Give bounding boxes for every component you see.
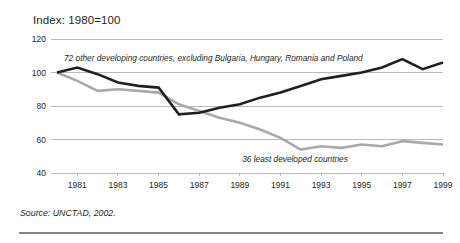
source-note: Source: UNCTAD, 2002.: [20, 208, 116, 218]
line-chart: 406080100120 198119831985198719891991199…: [0, 0, 460, 243]
y-axis-ticks: 406080100120: [32, 34, 46, 178]
y-tick-label: 60: [37, 135, 47, 145]
series-annotation: 72 other developing countries, excluding…: [64, 53, 363, 63]
y-tick-label: 40: [37, 168, 47, 178]
x-tick-label: 1993: [312, 180, 331, 190]
x-tick-label: 1983: [108, 180, 127, 190]
x-tick-label: 1999: [434, 180, 453, 190]
x-tick-label: 1981: [68, 180, 87, 190]
x-tick-label: 1995: [352, 180, 371, 190]
series-annotation: 36 least developed countries: [242, 154, 348, 164]
y-tick-label: 100: [32, 68, 46, 78]
y-tick-label: 80: [37, 101, 47, 111]
x-tick-label: 1989: [230, 180, 249, 190]
x-tick-label: 1985: [149, 180, 168, 190]
chart-figure: Index: 1980=100 406080100120 19811983198…: [0, 0, 460, 243]
series-line: [57, 73, 443, 150]
x-tick-label: 1987: [190, 180, 209, 190]
bottom-rule-divider: [19, 232, 443, 234]
x-tick-label: 1991: [271, 180, 290, 190]
x-axis-ticks: 1981198319851987198919911993199519971999: [68, 173, 453, 190]
y-tick-label: 120: [32, 34, 46, 44]
x-tick-label: 1997: [393, 180, 412, 190]
